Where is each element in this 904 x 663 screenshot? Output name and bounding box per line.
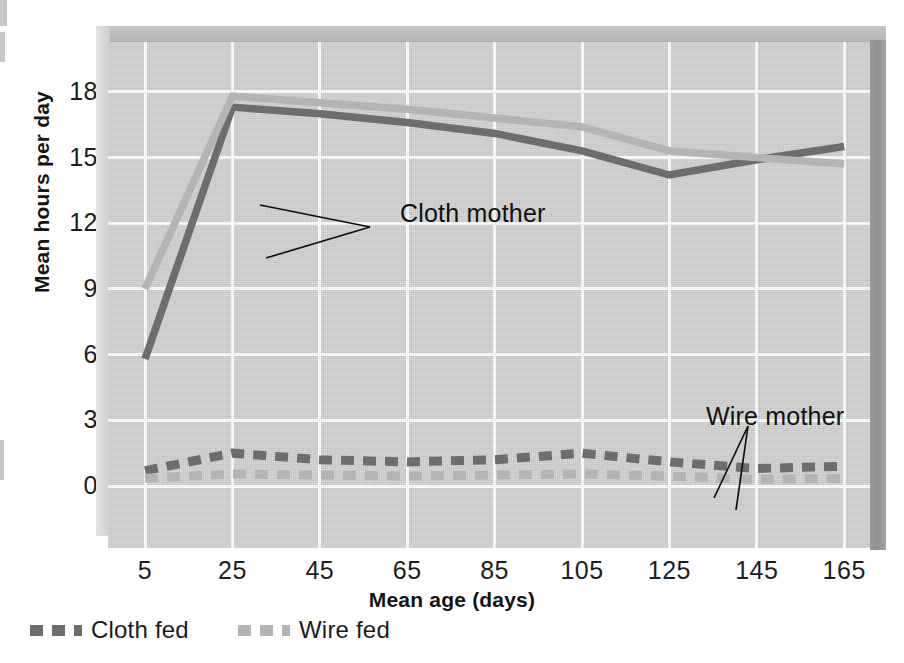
chart-legend: Cloth fedWire fed <box>0 612 904 654</box>
wire-mother-leader-lines <box>708 424 798 514</box>
x-tick-label: 25 <box>202 556 262 585</box>
plot-area: Cloth mother Wire mother <box>108 42 870 548</box>
x-tick-label: 105 <box>552 556 612 585</box>
series-line-cloth-mother-wire-fed <box>145 96 844 289</box>
plot-top-bevel <box>108 26 886 42</box>
page-edge-fragment <box>0 440 4 480</box>
cloth-mother-leader-lines <box>258 192 418 262</box>
x-axis-label: Mean age (days) <box>0 588 904 612</box>
plot-right-bevel <box>870 40 886 550</box>
legend-swatch <box>238 625 290 636</box>
x-tick-label: 45 <box>290 556 350 585</box>
legend-swatch <box>30 625 82 636</box>
page-edge-fragment <box>0 0 7 26</box>
x-tick-label: 165 <box>814 556 874 585</box>
y-tick-label: 15 <box>69 145 98 170</box>
x-axis-tick-labels: 525456585105125145165 <box>0 556 904 590</box>
legend-label: Cloth fed <box>91 616 189 644</box>
x-tick-label: 145 <box>727 556 787 585</box>
y-tick-label: 18 <box>69 79 98 104</box>
series-line-cloth-mother-cloth-fed <box>145 107 844 359</box>
cloth-mother-annotation: Cloth mother <box>400 199 546 228</box>
legend-item[interactable]: Wire fed <box>238 616 390 644</box>
wire-mother-annotation: Wire mother <box>706 402 844 431</box>
y-axis-label: Mean hours per day <box>30 32 54 352</box>
y-axis-tick-labels: 0369121518 <box>54 0 98 600</box>
legend-label: Wire fed <box>299 616 390 644</box>
y-tick-label: 12 <box>69 210 98 235</box>
x-tick-label: 5 <box>115 556 175 585</box>
x-tick-label: 125 <box>639 556 699 585</box>
chart-figure: 0369121518 Cloth mother Wire mother 5254… <box>0 0 904 663</box>
plot-frame: Cloth mother Wire mother <box>96 26 886 550</box>
page-edge-fragment <box>0 32 5 62</box>
x-tick-label: 85 <box>465 556 525 585</box>
x-tick-label: 65 <box>377 556 437 585</box>
legend-item[interactable]: Cloth fed <box>30 616 189 644</box>
